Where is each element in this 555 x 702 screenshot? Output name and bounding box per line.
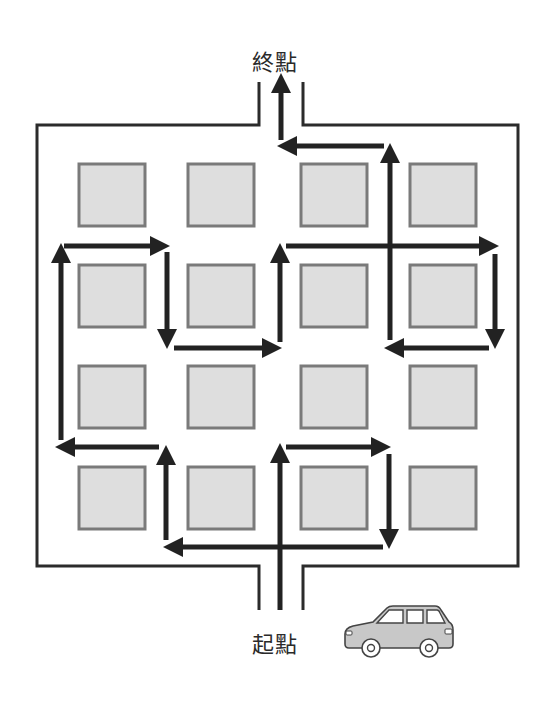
block-r4-c2: [188, 467, 254, 529]
block-r1-c1: [79, 164, 145, 226]
block-r3-c4: [410, 366, 476, 428]
car-hubcap-2: [426, 645, 433, 652]
start-point-label: 起點: [252, 626, 298, 658]
block-r2-c3: [301, 265, 367, 327]
car-icon: [345, 606, 453, 657]
block-r1-c2: [188, 164, 254, 226]
block-r1-c3: [301, 164, 367, 226]
block-r2-c1: [79, 265, 145, 327]
block-r3-c2: [188, 366, 254, 428]
block-r2-c2: [188, 265, 254, 327]
car-taillight: [445, 629, 452, 634]
car-window-middle: [407, 610, 423, 623]
car-hubcap-1: [368, 645, 375, 652]
car-headlight: [346, 631, 352, 635]
block-r3-c3: [301, 366, 367, 428]
city-route-diagram: [0, 0, 555, 702]
block-r2-c4: [410, 265, 476, 327]
block-r3-c1: [79, 366, 145, 428]
block-r4-c3: [301, 467, 367, 529]
end-point-label: 終點: [252, 44, 298, 76]
block-r4-c4: [410, 467, 476, 529]
block-r1-c4: [410, 164, 476, 226]
route-arrows: [61, 82, 495, 610]
block-r4-c1: [79, 467, 145, 529]
